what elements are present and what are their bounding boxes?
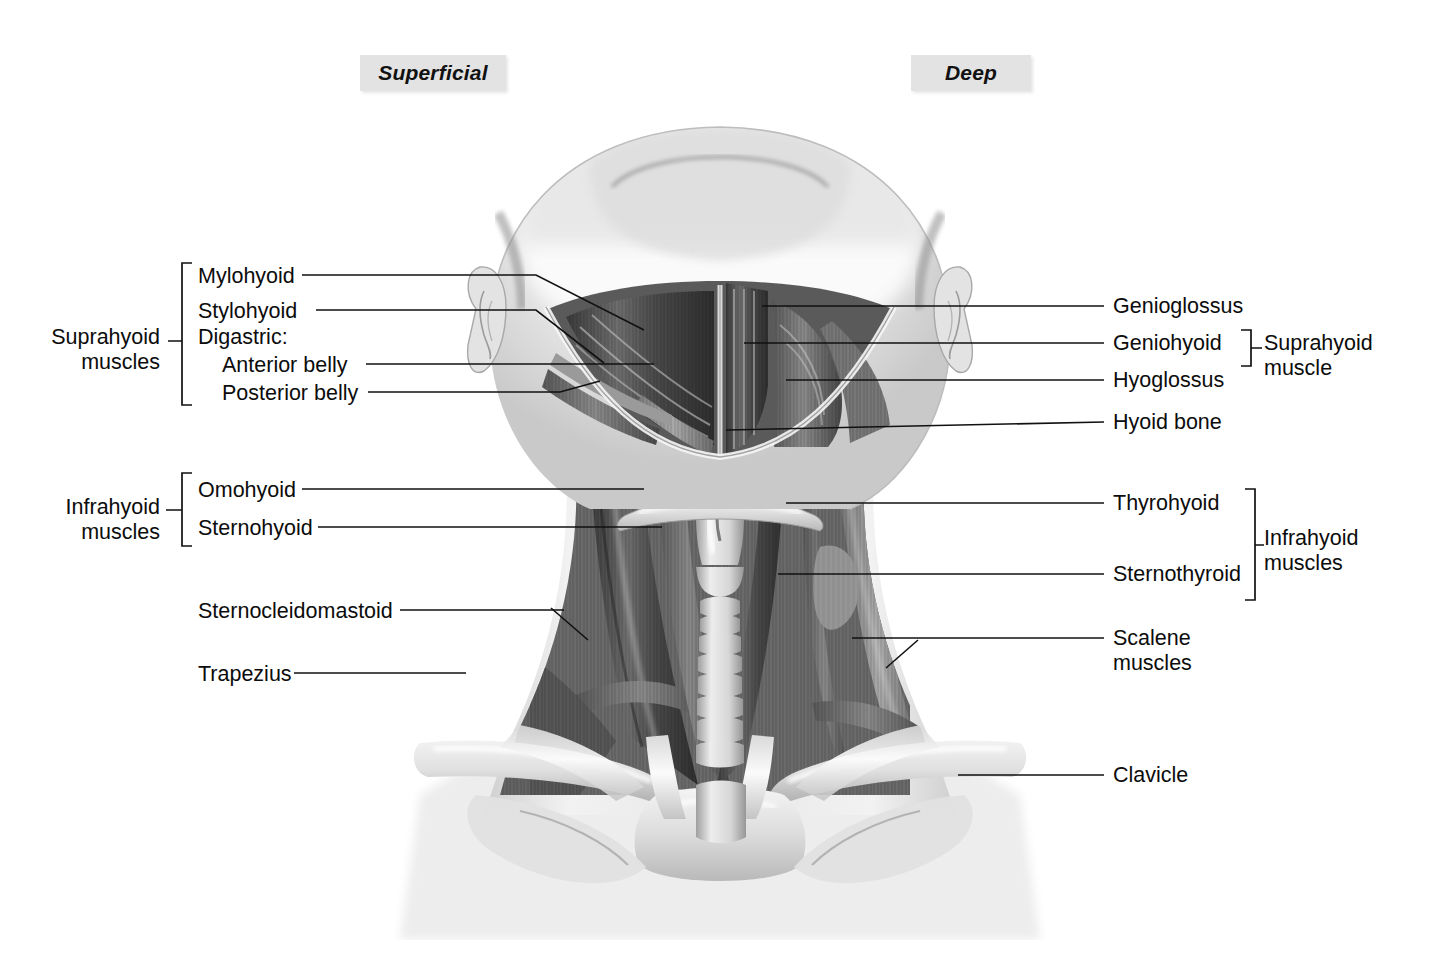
label-sternohyoid: Sternohyoid <box>198 516 313 541</box>
header-deep-label: Deep <box>945 61 997 85</box>
label-thyrohyoid: Thyrohyoid <box>1113 491 1219 516</box>
label-hyoid-bone: Hyoid bone <box>1113 410 1222 435</box>
label-stylohyoid: Stylohyoid <box>198 299 297 324</box>
bracket-infrahyoid-right <box>1245 489 1264 600</box>
label-genioglossus: Genioglossus <box>1113 294 1243 319</box>
anatomy-figure-page: Superficial Deep Suprahyoid muscles Infr… <box>0 0 1430 959</box>
label-scalene-muscles: Scalene muscles <box>1113 626 1192 676</box>
bracket-suprahyoid-left <box>168 263 192 405</box>
label-clavicle: Clavicle <box>1113 763 1188 788</box>
header-deep: Deep <box>911 55 1031 91</box>
group-label-suprahyoid-left: Suprahyoid muscles <box>30 325 160 375</box>
label-hyoglossus: Hyoglossus <box>1113 368 1224 393</box>
label-sternothyroid: Sternothyroid <box>1113 562 1241 587</box>
label-trapezius: Trapezius <box>198 662 292 687</box>
group-label-suprahyoid-right: Suprahyoid muscle <box>1264 331 1373 381</box>
label-sternocleidomastoid: Sternocleidomastoid <box>198 599 393 624</box>
label-posterior-belly: Posterior belly <box>222 381 358 406</box>
bracket-infrahyoid-left <box>166 473 192 546</box>
group-label-infrahyoid-left: Infrahyoid muscles <box>30 495 160 545</box>
label-mylohyoid: Mylohyoid <box>198 264 295 289</box>
label-anterior-belly: Anterior belly <box>222 353 347 378</box>
header-superficial: Superficial <box>360 55 506 91</box>
anterior-neck-illustration <box>380 95 1060 940</box>
bracket-suprahyoid-right <box>1241 330 1262 366</box>
header-superficial-label: Superficial <box>378 61 488 85</box>
label-digastric: Digastric: <box>198 325 288 350</box>
label-omohyoid: Omohyoid <box>198 478 296 503</box>
group-label-infrahyoid-right: Infrahyoid muscles <box>1264 526 1358 576</box>
label-geniohyoid: Geniohyoid <box>1113 331 1222 356</box>
